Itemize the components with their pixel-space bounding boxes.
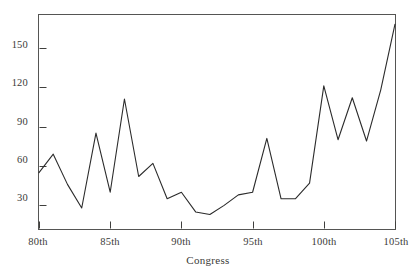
plot-frame bbox=[39, 15, 396, 230]
line-chart-figure: 150 120 90 60 30 80th 85th 90th 95th 100… bbox=[0, 0, 416, 276]
x-tick-label-90th: 90th bbox=[159, 236, 203, 247]
x-tick-label-80th: 80th bbox=[16, 236, 60, 247]
x-tick-label-105th: 105th bbox=[374, 236, 416, 247]
y-tick-label-30: 30 bbox=[2, 192, 28, 203]
y-tick-label-120: 120 bbox=[2, 77, 28, 88]
x-tick-label-95th: 95th bbox=[231, 236, 275, 247]
x-tick-label-100th: 100th bbox=[302, 236, 346, 247]
x-axis-title: Congress bbox=[0, 254, 416, 266]
y-tick-label-60: 60 bbox=[2, 154, 28, 165]
plot-area bbox=[0, 0, 416, 276]
y-tick-label-90: 90 bbox=[2, 116, 28, 127]
y-tick-label-150: 150 bbox=[2, 39, 28, 50]
x-tick-label-85th: 85th bbox=[88, 236, 132, 247]
